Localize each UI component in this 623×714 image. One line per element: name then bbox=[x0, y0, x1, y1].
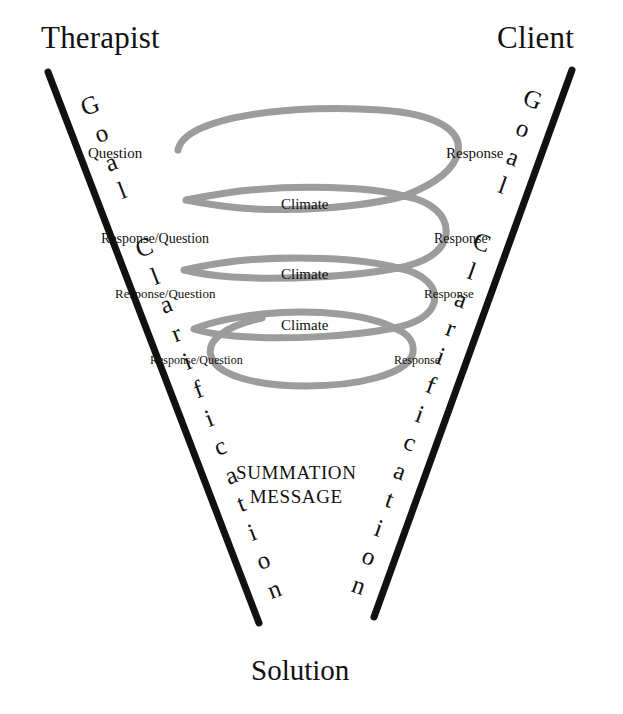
climate-label: Climate bbox=[281, 267, 329, 282]
left-exchange-label: Response/Question bbox=[101, 232, 209, 246]
right-exchange-label: Response bbox=[394, 354, 440, 366]
page-title-client: Client bbox=[497, 22, 574, 53]
summation-message-line1: SUMMATION bbox=[236, 461, 356, 485]
left-exchange-label: Question bbox=[88, 146, 142, 161]
summation-message: SUMMATION MESSAGE bbox=[236, 461, 356, 510]
left-exchange-label: Response/Question bbox=[115, 287, 215, 300]
climate-label: Climate bbox=[281, 318, 329, 333]
spiral-segment-1 bbox=[178, 108, 458, 196]
right-exchange-label: Response bbox=[434, 232, 488, 246]
left-funnel-line bbox=[48, 72, 259, 623]
page-title-solution: Solution bbox=[251, 656, 349, 685]
climate-label: Climate bbox=[281, 197, 329, 212]
right-exchange-label: Response bbox=[446, 146, 504, 161]
interaction-spiral bbox=[178, 108, 458, 386]
goal-clarification-funnel-diagram: Therapist Client Solution SUMMATION MESS… bbox=[0, 0, 623, 714]
right-exchange-label: Response bbox=[424, 287, 474, 300]
page-title-therapist: Therapist bbox=[41, 22, 160, 53]
left-exchange-label: Response/Question bbox=[150, 354, 243, 366]
summation-message-line2: MESSAGE bbox=[236, 485, 356, 509]
